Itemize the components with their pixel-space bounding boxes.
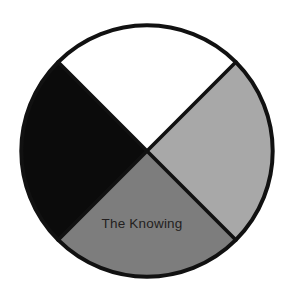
quadrant-circle-diagram: The Knowing: [0, 0, 288, 302]
bottom-quadrant-label: The Knowing: [102, 216, 183, 231]
quadrant-circle-svg: The Knowing: [0, 0, 288, 302]
